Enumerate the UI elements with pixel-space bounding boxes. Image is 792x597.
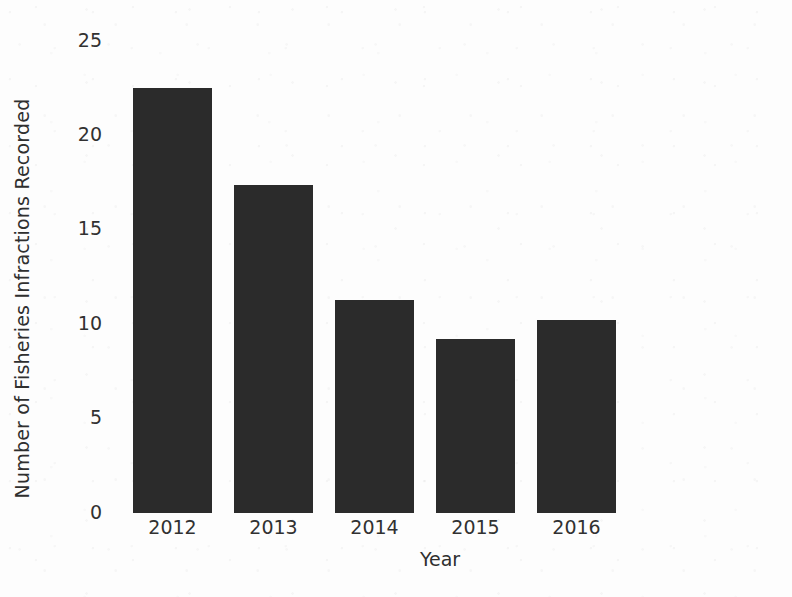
x-tick-label-2012: 2012 <box>133 516 212 538</box>
x-tick-label-2013: 2013 <box>234 516 313 538</box>
y-axis-title: Number of Fisheries Infractions Recorded <box>0 0 44 597</box>
y-tick-label: 15 <box>56 217 102 239</box>
y-tick-label: 25 <box>56 29 102 51</box>
x-tick-label-2016: 2016 <box>537 516 616 538</box>
y-axis-tick-labels: 0 5 10 15 20 25 <box>46 0 102 597</box>
bar-2014[interactable] <box>335 300 414 513</box>
y-tick-label: 20 <box>56 123 102 145</box>
y-tick-label: 5 <box>56 406 102 428</box>
bar-2013[interactable] <box>234 185 313 513</box>
y-tick-label: 0 <box>56 501 102 523</box>
x-tick-label-2014: 2014 <box>335 516 414 538</box>
bar-chart-figure: Number of Fisheries Infractions Recorded… <box>0 0 792 597</box>
x-axis-title: Year <box>110 548 770 570</box>
x-tick-label-2015: 2015 <box>436 516 515 538</box>
bar-2012[interactable] <box>133 88 212 513</box>
bar-2015[interactable] <box>436 339 515 513</box>
x-axis-tick-labels: 2012 2013 2014 2015 2016 <box>110 516 770 546</box>
plot-area <box>110 30 770 513</box>
y-tick-label: 10 <box>56 312 102 334</box>
bar-2016[interactable] <box>537 320 616 513</box>
